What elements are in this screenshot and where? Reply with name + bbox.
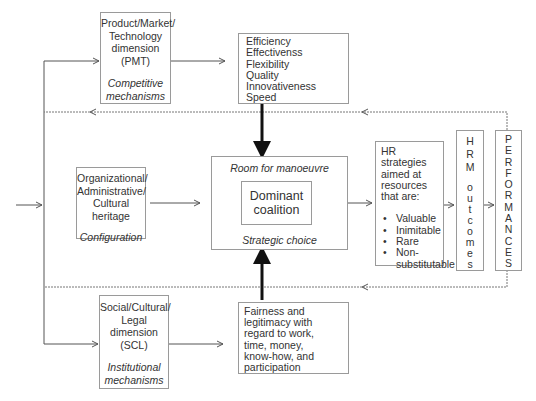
letter: M <box>466 161 475 174</box>
dominant-coalition-box: Dominant coalition <box>241 181 312 225</box>
pmt-subtitle-1: Competitive <box>101 77 170 90</box>
letter: N <box>505 224 513 235</box>
pmt-title-3: dimension <box>101 42 170 55</box>
room-for-manoeuvre-box: Room for manoeuvre Dominant coalition St… <box>211 156 348 250</box>
top-feedback-line <box>44 112 507 130</box>
scl-box: Social/Cultural/ Legal dimension (SCL) I… <box>99 295 169 389</box>
hr-bullet-list: Valuable Inimitable Rare Non-substitutab… <box>381 213 443 269</box>
hr-intro-1: HR strategies <box>381 146 443 169</box>
fairness-line: participation <box>244 362 348 373</box>
outcomes-bottom-box: Fairness and legitimacy with regard to w… <box>238 302 349 374</box>
hr-bullet: Non-substitutable <box>381 247 444 270</box>
letter: S <box>505 258 512 269</box>
org-title-4: heritage <box>77 210 145 223</box>
scl-subtitle-2: mechanisms <box>100 374 168 387</box>
outcomes-top-box: Efficiency Effectivenss Flexibility Qual… <box>238 33 349 104</box>
room-label: Room for manoeuvre <box>212 162 347 175</box>
pmt-subtitle-2: mechanisms <box>101 90 170 103</box>
letter: R <box>466 148 474 161</box>
performances-box: P E R F O R M A N C E S <box>495 130 522 271</box>
bottom-feedback-line <box>44 270 507 287</box>
org-title-1: Organizational/ <box>77 172 145 185</box>
scl-title-1: Social/Cultural/ <box>100 301 168 314</box>
scl-title-2: Legal <box>100 314 168 327</box>
scl-title-3: dimension <box>100 326 168 339</box>
dominant-line-1: Dominant <box>242 189 311 203</box>
letter: E <box>505 145 512 156</box>
pmt-title-4: (PMT) <box>101 55 170 68</box>
fairness-line: regard to work, <box>244 328 348 339</box>
hr-strategies-box: HR strategies aimed at resources that ar… <box>375 141 444 266</box>
letter: s <box>467 259 472 270</box>
org-title-2: Administrative/ <box>77 185 145 198</box>
outcome-item: Speed <box>246 92 348 103</box>
dominant-line-2: coalition <box>242 203 311 217</box>
pmt-title-2: Technology <box>101 30 170 43</box>
hrm-outcomes-box: H R M o u t c o m e s <box>456 130 484 271</box>
scl-subtitle-1: Institutional <box>100 361 168 374</box>
org-title-3: Cultural <box>77 197 145 210</box>
hr-intro-4: that are: <box>381 191 443 202</box>
letter: H <box>466 135 474 148</box>
org-subtitle: Configuration <box>77 231 145 244</box>
pmt-title-1: Product/Market/ <box>101 17 170 30</box>
outcome-item: Effectivenss <box>246 47 348 58</box>
pmt-box: Product/Market/ Technology dimension (PM… <box>100 12 171 104</box>
strategic-choice-label: Strategic choice <box>212 234 347 247</box>
org-box: Organizational/ Administrative/ Cultural… <box>76 167 146 239</box>
scl-title-4: (SCL) <box>100 339 168 352</box>
